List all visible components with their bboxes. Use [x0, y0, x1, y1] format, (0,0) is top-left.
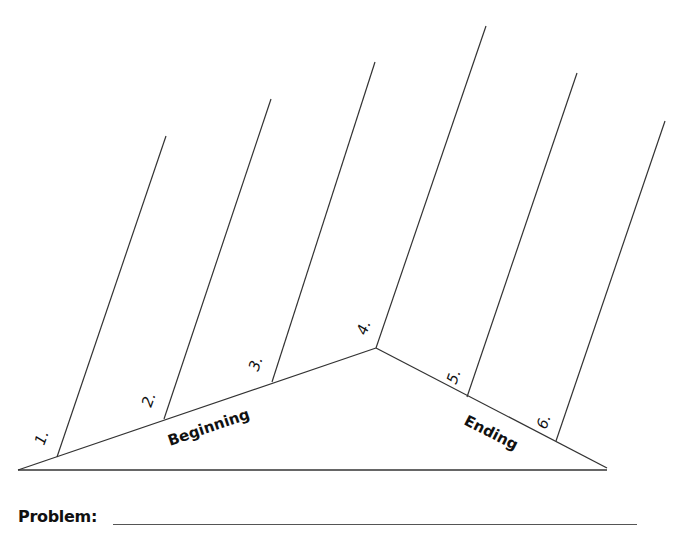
beginning-slope [18, 348, 376, 470]
bone-number-2: 2. [138, 390, 160, 410]
ending-label: Ending [461, 412, 521, 454]
bone-number-3: 3. [245, 354, 267, 374]
plot-triangle [18, 348, 607, 470]
bone-line-1 [57, 136, 166, 457]
bone-number-6: 6. [533, 412, 555, 432]
problem-answer-line[interactable] [113, 524, 637, 525]
bone-line-5 [467, 73, 577, 397]
problem-label: Problem: [18, 507, 97, 526]
bone-line-4 [376, 26, 486, 348]
beginning-label: Beginning [165, 405, 252, 450]
bone-number-4: 4. [353, 318, 375, 338]
story-fishbone-diagram: 1.2.3.4.5.6. Beginning Ending [0, 0, 680, 546]
bone-number-1: 1. [31, 428, 53, 448]
bone-line-6 [556, 121, 665, 441]
bone-number-5: 5. [443, 367, 465, 387]
ending-slope [376, 348, 607, 468]
